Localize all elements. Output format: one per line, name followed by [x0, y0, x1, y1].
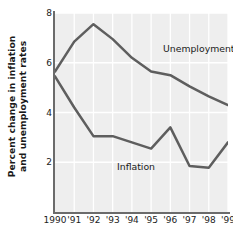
x-tick-label-1991: '91 [67, 215, 81, 225]
x-tick-label-1997: '97 [183, 215, 197, 225]
y-tick-label-8: 8 [38, 8, 52, 18]
series-line-unemployment [55, 24, 228, 105]
y-axis-title: Percent change in inflation and unemploy… [7, 35, 30, 177]
y-tick-label-4: 4 [38, 108, 52, 118]
line-chart-figure: Percent change in inflation and unemploy… [0, 0, 233, 242]
series-annotation-inflation: Inflation [117, 161, 155, 172]
y-axis-title-line-2: and unemployment rates [18, 40, 29, 171]
x-tick-label-1996: '96 [163, 215, 177, 225]
x-tick-label-1990: 1990 [44, 215, 67, 225]
series-line-inflation [55, 76, 228, 167]
y-axis-title-line-1: Percent change in inflation [7, 35, 18, 177]
x-axis-tick-labels: 1990'91'92'93'94'95'96'97'98'99 [0, 215, 233, 235]
x-tick-label-1993: '93 [106, 215, 120, 225]
x-axis-line [53, 212, 230, 214]
x-tick-label-1999: '99 [221, 215, 233, 225]
x-tick-label-1992: '92 [86, 215, 100, 225]
x-tick-label-1994: '94 [125, 215, 139, 225]
series-annotation-unemployment: Unemployment [163, 43, 233, 54]
plot-area: Unemployment Inflation [55, 13, 228, 212]
x-tick-label-1998: '98 [202, 215, 216, 225]
x-tick-label-1995: '95 [144, 215, 158, 225]
y-axis-tick-labels: 8 6 4 2 [36, 0, 52, 242]
y-tick-label-6: 6 [38, 58, 52, 68]
y-axis-title-container: Percent change in inflation and unemploy… [0, 0, 36, 212]
y-tick-label-2: 2 [38, 157, 52, 167]
